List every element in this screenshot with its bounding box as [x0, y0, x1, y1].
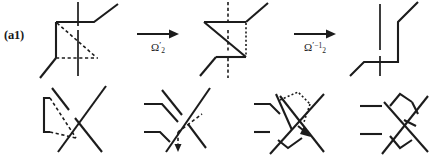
diagram-panel-c1-3 — [254, 82, 328, 160]
knot-diagram-a1-1 — [48, 0, 134, 80]
diagram-panel-a1-1 — [48, 0, 134, 80]
diagram-panel-c1-4 — [360, 82, 433, 160]
omega-symbol: Ω — [151, 41, 159, 53]
dashed-arrow-head — [175, 144, 182, 152]
row-label-a1: (a1) — [4, 28, 24, 43]
omega-subscript: 2 — [322, 46, 326, 55]
diagram-row-a1: (a1) — [0, 0, 433, 80]
strand-diag-ne-sw — [166, 88, 210, 152]
omega-subscript: 2 — [161, 46, 165, 55]
strand-step-solid — [350, 2, 418, 76]
knot-diagram-a1-2 — [198, 0, 288, 80]
knot-diagram-a1-3 — [350, 0, 433, 80]
strand-elbow-lower — [144, 132, 170, 142]
strand-big-diag-nw-se — [280, 96, 324, 152]
omega-superscript: −1 — [314, 41, 322, 50]
arrow-label-a1-2: Ω′−12 — [284, 41, 346, 55]
strand-lower-left-tail — [200, 57, 216, 76]
strand-x-ne-sw — [58, 86, 106, 152]
omega-symbol: Ω — [304, 41, 312, 53]
strand-dotted-down — [304, 104, 310, 122]
strand-lower-zig — [278, 138, 302, 148]
strand-big-diag-ne-sw — [270, 94, 324, 154]
strand-elbow-upper — [144, 104, 178, 122]
strand-diag-se — [188, 124, 206, 148]
diagram-row-c1: (c1) Ω2 — [0, 80, 433, 161]
arrow-group-a1-2: Ω′−12 — [284, 28, 346, 55]
diagram-panel-a1-2 — [198, 0, 288, 80]
arrow-group-a1-1: Ω′2 — [130, 28, 186, 55]
arrow-icon-right — [136, 28, 180, 40]
figure-root: (a1) — [0, 0, 433, 161]
strand-dashed-diagonal — [57, 23, 96, 57]
strand-diag-nw — [162, 90, 182, 115]
strand-upper-right-tail — [246, 3, 268, 22]
arrow-label-a1-1: Ω′2 — [130, 41, 186, 55]
knot-diagram-c1-2 — [148, 82, 218, 160]
knot-diagram-c1-3 — [254, 82, 328, 160]
strand-lower-zig — [390, 136, 412, 148]
strand-lower-left-tail — [40, 58, 56, 78]
diagram-panel-c1-1 — [42, 82, 114, 160]
diagram-panel-a1-3 — [350, 0, 433, 80]
knot-diagram-c1-1 — [42, 82, 114, 160]
strand-upper-zig — [390, 94, 412, 106]
strand-z-diagonal — [204, 22, 246, 57]
strand-upper-solid — [56, 4, 118, 22]
knot-diagram-c1-4 — [360, 82, 433, 160]
bracket-left — [44, 98, 50, 132]
strand-stub-upper — [254, 104, 280, 114]
diagram-panel-c1-2 — [148, 82, 218, 160]
strand-x-nw — [52, 88, 69, 110]
arrow-icon-right — [293, 28, 337, 40]
